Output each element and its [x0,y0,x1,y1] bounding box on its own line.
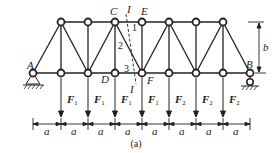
diagonal-5 [169,22,196,73]
label-F: F [146,74,154,86]
dim-label-5: a [152,125,158,137]
node-C [112,19,119,26]
diagonal-4 [142,22,169,73]
label-C: C [110,5,118,17]
load-label-5: F2 [174,93,186,107]
truss-diagram: F1 F1 F1 F1 F2 F2 F2 [0,0,279,153]
truss-members [33,22,250,73]
load-label-2: F1 [93,93,105,107]
dim-label-1: a [44,125,50,137]
load-label-7: F2 [228,93,240,107]
node-D [112,70,119,77]
span-dimensions [33,118,250,130]
diagonal-2 [88,22,115,73]
member-number-2: 2 [118,40,123,51]
label-B: B [246,58,253,70]
node-B [247,70,254,77]
label-D: D [100,73,109,85]
figure-caption: (a) [130,138,141,150]
member-end-left [33,22,61,73]
member-number-1: 1 [132,22,137,33]
label-A: A [26,59,34,71]
node-F [139,70,146,77]
dim-label-4: a [125,125,131,137]
load-label-1: F1 [66,93,78,107]
dim-label-7: a [206,125,212,137]
load-label-4: F1 [147,93,159,107]
diagonal-6 [196,22,223,73]
dim-label-2: a [71,125,77,137]
section-label-bottom: I [129,83,135,95]
load-label-6: F2 [201,93,213,107]
member-number-3: 3 [124,63,129,74]
label-E: E [140,5,148,17]
node-E [139,19,146,26]
load-arrows [59,78,226,117]
section-label-top: I [126,3,132,15]
load-label-3: F1 [120,93,132,107]
dim-label-8: a [233,125,239,137]
dim-label-6: a [179,125,185,137]
diagonal-1 [61,22,88,73]
height-label-b: b [263,41,269,53]
dim-label-3: a [98,125,104,137]
